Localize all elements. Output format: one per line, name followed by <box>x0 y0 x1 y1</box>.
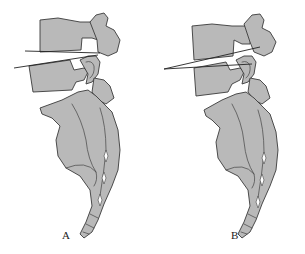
panel-label-b: B <box>231 229 238 241</box>
panel-label-a: A <box>62 229 70 241</box>
spine-illustration-b <box>152 0 304 254</box>
spine-illustration-a <box>0 0 152 254</box>
spine-figure: A <box>0 0 305 254</box>
panel-b: B <box>152 0 304 254</box>
panel-a: A <box>0 0 152 254</box>
